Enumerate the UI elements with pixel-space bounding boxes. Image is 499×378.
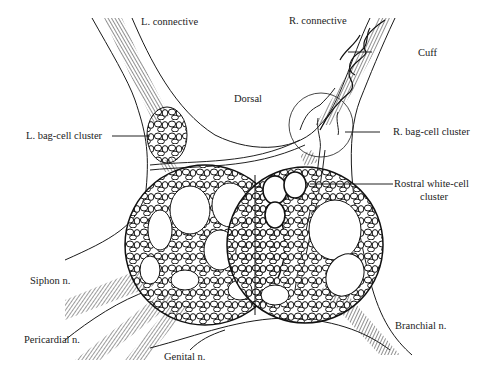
ganglion-diagram: L. connective R. connective Cuff Dorsal … (0, 0, 499, 378)
label-rostral-white-cell-cluster: cluster (420, 191, 448, 203)
label-l-bag-cell-cluster: L. bag-cell cluster (26, 130, 102, 142)
label-genital-nerve: Genital n. (164, 351, 205, 363)
ganglion-right-hemisphere (227, 167, 383, 323)
label-cuff: Cuff (418, 47, 437, 59)
label-dorsal: Dorsal (234, 93, 262, 105)
label-r-bag-cell-cluster: R. bag-cell cluster (393, 126, 470, 138)
label-pericardial-nerve: Pericardial n. (24, 334, 80, 346)
label-l-connective: L. connective (141, 16, 198, 28)
label-siphon-nerve: Siphon n. (30, 275, 70, 287)
label-r-connective: R. connective (289, 15, 347, 27)
label-rostral-white-cell: Rostral white-cell (394, 178, 469, 190)
l-bag-cell-cluster (147, 107, 187, 163)
label-branchial-nerve: Branchial n. (395, 320, 446, 332)
r-connective-fibers (315, 18, 392, 125)
